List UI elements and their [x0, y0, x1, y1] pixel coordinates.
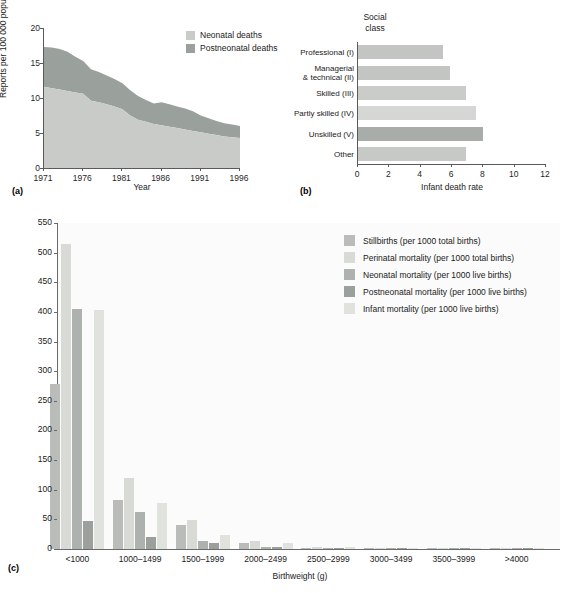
- panel-c-y-tick-mark: [54, 490, 57, 491]
- legend-item-4: Postneonatal mortality (per 1000 live bi…: [344, 286, 527, 297]
- panel-c-bar: [187, 520, 197, 549]
- panel-b-category-label-line1: Skilled (III): [316, 88, 354, 97]
- panel-b-bar: [358, 127, 483, 141]
- panel-b-x-tick-mark: [514, 164, 515, 167]
- legend-item-postneonatal-deaths: Postneonatal deaths: [186, 43, 278, 53]
- panel-c-bar: [135, 512, 145, 549]
- panel-a-y-tick-mark: [40, 63, 43, 64]
- legend-label-2: Perinatal mortality (per 1000 total birt…: [363, 253, 514, 263]
- panel-c-x-axis-line: [57, 549, 560, 550]
- panel-b-x-tick-mark: [482, 164, 483, 167]
- panel-a-y-tick-mark: [40, 28, 43, 29]
- panel-c-bar: [124, 478, 134, 549]
- panel-b-bar-row: Skilled (III): [358, 86, 546, 100]
- panel-b-x-tick-mark: [545, 164, 546, 167]
- panel-b-x-tick-mark: [420, 164, 421, 167]
- panel-b-category-label: Professional (I): [300, 48, 354, 57]
- panel-c-y-tick-mark: [54, 401, 57, 402]
- panel-c-bar: [397, 548, 407, 549]
- panel-a-y-tick-mark: [40, 98, 43, 99]
- panel-a-legend: Neonatal deaths Postneonatal deaths: [186, 30, 278, 56]
- panel-a-x-tick-label: 1976: [73, 173, 92, 183]
- panel-b-bar-row: Professional (I): [358, 45, 546, 59]
- panel-c-bar: [427, 548, 437, 549]
- panel-c-x-tick-label: 2000–2499: [244, 554, 287, 564]
- panel-a-x-tick-label: 1996: [230, 173, 249, 183]
- panel-c-legend: Stillbirths (per 1000 total births)Perin…: [344, 235, 527, 320]
- panel-c-bar: [364, 548, 374, 549]
- panel-c-x-axis-label: Birthweight (g): [273, 571, 328, 581]
- panel-c-bar-group: [176, 223, 230, 549]
- panel-c-y-tick-mark: [54, 371, 57, 372]
- panel-c-bar: [408, 548, 418, 549]
- legend-swatch-neonatal-deaths: [186, 31, 195, 40]
- panel-a-x-tick-label: 1971: [34, 173, 53, 183]
- panel-b-category-label: Skilled (III): [316, 88, 354, 97]
- legend-swatch-4: [344, 286, 355, 297]
- panel-b-x-tick-label: 2: [386, 169, 391, 179]
- panel-b-header: Social class: [340, 12, 410, 34]
- panel-c-y-tick-label: 0: [47, 543, 52, 553]
- panel-c-x-tick-label: 3000–3499: [370, 554, 413, 564]
- panel-c-bar-group: [50, 223, 104, 549]
- panel-c-bar: [449, 548, 459, 549]
- panel-c-y-tick-label: 100: [38, 484, 52, 494]
- panel-c-y-tick-mark: [54, 549, 57, 550]
- panel-a-y-axis-label: Reports per 100 000 population: [0, 0, 8, 98]
- panel-c-y-tick-label: 50: [43, 513, 52, 523]
- panel-c-y-tick-label: 350: [38, 336, 52, 346]
- panel-c-bar: [239, 543, 249, 549]
- panel-a-x-tick-label: 1986: [151, 173, 170, 183]
- legend-item-5: Infant mortality (per 1000 live births): [344, 303, 527, 314]
- panel-c-bar: [61, 244, 71, 549]
- panel-b-bar-chart: Social class Professional (I)Managerial&…: [292, 0, 582, 205]
- panel-c-y-tick-label: 150: [38, 454, 52, 464]
- panel-c-bar: [490, 548, 500, 549]
- panel-b-x-tick-label: 4: [417, 169, 422, 179]
- panel-b-bar-row: Unskilled (V): [358, 127, 546, 141]
- panel-c-bar: [334, 548, 344, 549]
- panel-c-bar: [146, 537, 156, 549]
- panel-c-bar: [460, 548, 470, 549]
- panel-c-bar: [534, 548, 544, 549]
- legend-item-2: Perinatal mortality (per 1000 total birt…: [344, 252, 527, 263]
- legend-item-3: Neonatal mortality (per 1000 live births…: [344, 269, 527, 280]
- panel-c-bar: [375, 548, 385, 549]
- panel-a-x-tick-mark: [161, 168, 162, 171]
- panel-c-y-tick-mark: [54, 223, 57, 224]
- panel-c-y-tick-mark: [54, 342, 57, 343]
- panel-b-x-tick-label: 10: [509, 169, 518, 179]
- panel-c-x-tick-label: 3500–3999: [433, 554, 476, 564]
- panel-b-bar: [358, 106, 476, 120]
- legend-swatch-postneonatal-deaths: [186, 44, 195, 53]
- panel-letter-c: (c): [8, 563, 19, 573]
- panel-c-y-tick-mark: [54, 430, 57, 431]
- panel-b-category-label-line1: Professional (I): [300, 48, 354, 57]
- panel-c-bar: [94, 310, 104, 549]
- panel-c-x-tick-label: >4000: [505, 554, 529, 564]
- panel-c-bar: [113, 500, 123, 549]
- legend-swatch-2: [344, 252, 355, 263]
- panel-c-x-tick-label: 1000–1499: [119, 554, 162, 564]
- panel-b-bar: [358, 45, 443, 59]
- panel-c-bar: [386, 548, 396, 549]
- panel-b-category-label-line1: Managerial: [303, 64, 354, 73]
- panel-b-x-tick-label: 6: [449, 169, 454, 179]
- panel-c-bar: [157, 503, 167, 549]
- panel-b-category-label: Partly skilled (IV): [294, 109, 354, 118]
- panel-b-x-tick-mark: [451, 164, 452, 167]
- legend-label-3: Neonatal mortality (per 1000 live births…: [363, 270, 511, 280]
- panel-c-bar: [512, 548, 522, 549]
- panel-c-bar: [50, 384, 60, 549]
- panel-c-y-tick-mark: [54, 282, 57, 283]
- panel-b-x-tick-mark: [388, 164, 389, 167]
- panel-c-bar: [523, 548, 533, 549]
- panel-c-bar: [198, 541, 208, 549]
- panel-b-bar: [358, 147, 466, 161]
- panel-c-bar: [176, 525, 186, 549]
- panel-a-x-tick-mark: [239, 168, 240, 171]
- legend-label-postneonatal-deaths: Postneonatal deaths: [200, 43, 278, 53]
- panel-c-bar: [283, 543, 293, 549]
- panel-a-x-axis-label: Year: [133, 182, 150, 192]
- panel-b-x-tick-label: 0: [355, 169, 360, 179]
